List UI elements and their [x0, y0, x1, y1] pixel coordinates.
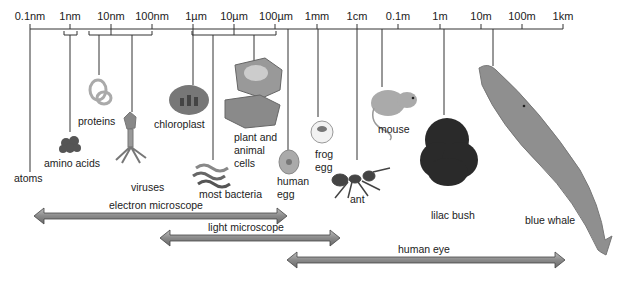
label-light-microscope: light microscope — [208, 221, 284, 233]
label-human-eye: human eye — [398, 243, 450, 255]
range-arrows — [0, 0, 623, 285]
label-electron-microscope: electron microscope — [109, 199, 203, 211]
